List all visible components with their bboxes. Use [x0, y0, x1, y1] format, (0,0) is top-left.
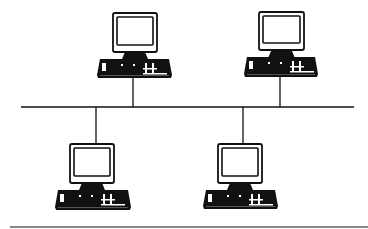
- screen: [222, 148, 258, 176]
- bus-network-diagram: [0, 0, 368, 229]
- screen: [74, 148, 110, 176]
- drive-slot: [102, 63, 106, 71]
- workstation-node: [55, 144, 131, 210]
- screen: [263, 16, 300, 43]
- drive-slot: [60, 194, 64, 202]
- screen: [117, 17, 153, 45]
- workstation-node: [244, 12, 318, 77]
- drive-slot: [208, 194, 212, 202]
- monitor-stand: [79, 183, 105, 190]
- workstation-node: [97, 13, 172, 78]
- network-links: [96, 77, 280, 144]
- monitor-stand: [122, 52, 148, 59]
- drive-slot: [249, 61, 253, 69]
- monitor-stand: [227, 183, 253, 190]
- monitor-stand: [269, 50, 295, 57]
- workstations: [55, 12, 318, 210]
- workstation-node: [203, 144, 278, 209]
